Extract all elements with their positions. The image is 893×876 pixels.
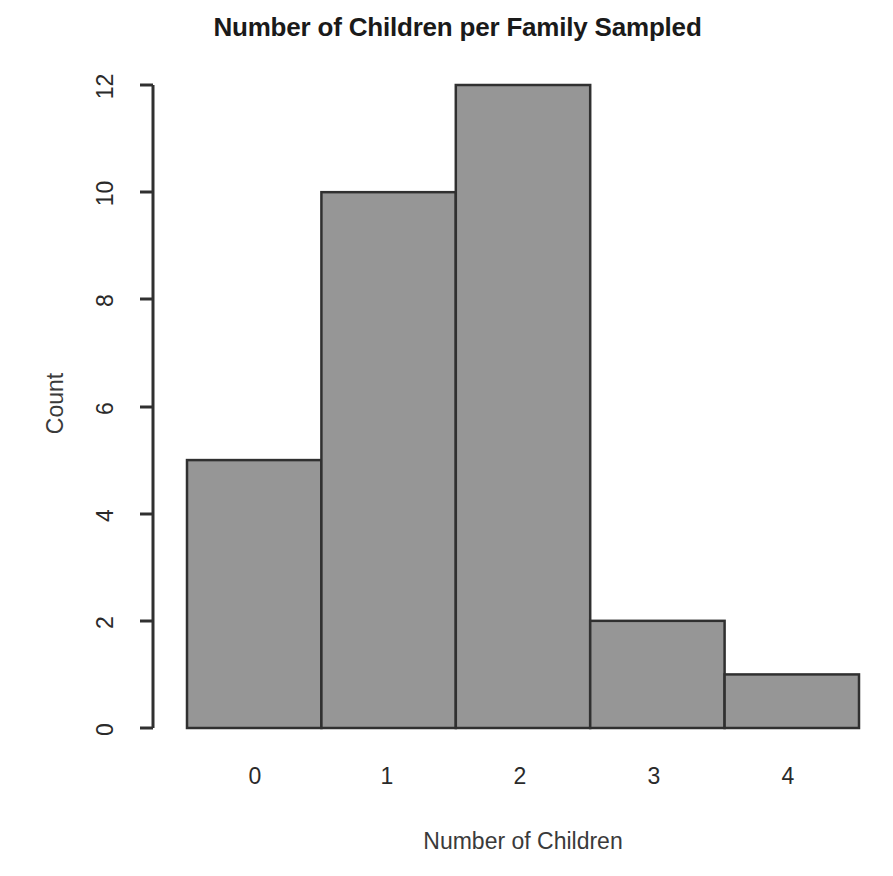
y-tick-label-2: 2: [92, 600, 119, 646]
x-tick-label-3: 3: [624, 763, 684, 790]
bar-1: [321, 192, 455, 728]
bar-3: [590, 621, 724, 728]
y-tick-label-4: 4: [92, 493, 119, 539]
y-tick-label-0: 0: [92, 707, 119, 753]
chart-container: Number of Children per Family Sampled 0 …: [0, 0, 893, 876]
bar-4: [725, 674, 859, 728]
y-tick-label-6: 6: [92, 386, 119, 432]
y-tick-label-12: 12: [92, 64, 119, 110]
x-tick-label-4: 4: [758, 763, 818, 790]
y-axis-ticks: [140, 85, 153, 728]
bar-0: [187, 460, 321, 728]
x-tick-label-0: 0: [225, 763, 285, 790]
x-tick-label-2: 2: [490, 763, 550, 790]
y-tick-label-8: 8: [92, 278, 119, 324]
bar-2: [456, 85, 590, 728]
x-axis-title: Number of Children: [153, 828, 893, 855]
y-axis-title: Count: [42, 339, 69, 469]
plot-area: [0, 0, 893, 876]
y-tick-label-10: 10: [92, 171, 119, 217]
x-tick-label-1: 1: [357, 763, 417, 790]
bars-group: [187, 85, 859, 728]
